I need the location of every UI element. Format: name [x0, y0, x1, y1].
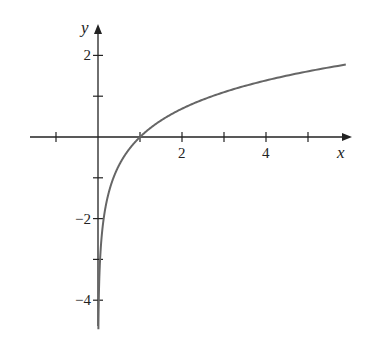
y-tick-label: −2 [75, 211, 91, 227]
y-axis-label: y [79, 18, 89, 37]
y-tick-label: −4 [75, 292, 91, 308]
x-axis-arrow-icon [342, 133, 352, 141]
y-axis-arrow-icon [94, 24, 102, 34]
x-tick-label: 4 [262, 145, 270, 161]
x-axis-label: x [336, 143, 345, 162]
chart: x y 242−2−4 [0, 0, 385, 344]
x-tick-label: 2 [178, 145, 186, 161]
y-axis [93, 24, 103, 326]
series-ln-x [98, 65, 345, 330]
y-tick-label: 2 [84, 47, 92, 63]
x-axis [30, 132, 352, 142]
